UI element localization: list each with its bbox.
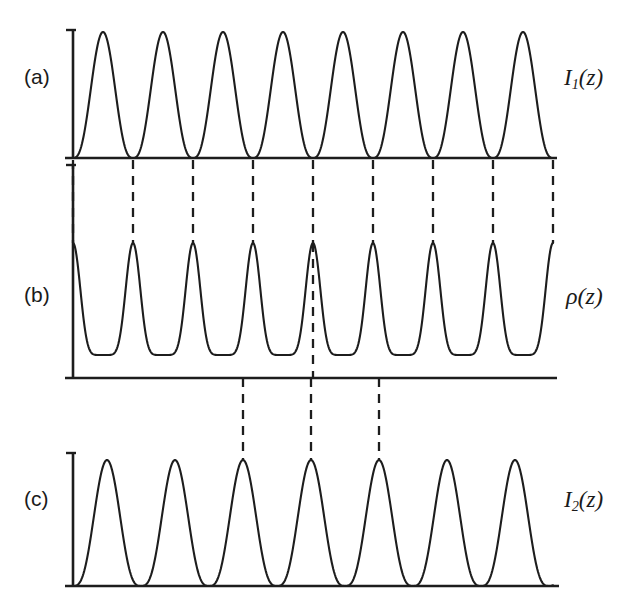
signal-label-i1-subscript: 1 [572, 76, 579, 92]
figure-plot-area [0, 0, 632, 613]
panel-letter-a: (a) [24, 66, 50, 87]
signal-label-i2-argument: (z) [579, 487, 603, 512]
signal-label-rho: ρ(z) [566, 284, 603, 308]
panel-letter-b: (b) [24, 284, 50, 305]
signal-label-i1-base: I [564, 65, 572, 90]
signal-label-i2-subscript: 2 [572, 498, 579, 514]
signal-label-i2: I2(z) [564, 488, 603, 511]
signal-label-i2-base: I [564, 487, 572, 512]
guide-lines-layer [73, 160, 553, 460]
signal-label-rho-argument: (z) [578, 283, 603, 309]
signal-label-i1: I1(z) [564, 66, 603, 89]
signal-label-i1-argument: (z) [579, 65, 603, 90]
curve-panel-c [73, 460, 553, 586]
figure-container: (a) (b) (c) I1(z) ρ(z) I2(z) [0, 0, 632, 613]
signal-label-rho-base: ρ [566, 283, 578, 309]
curve-panel-a [73, 32, 553, 158]
panel-letter-c: (c) [24, 488, 49, 509]
